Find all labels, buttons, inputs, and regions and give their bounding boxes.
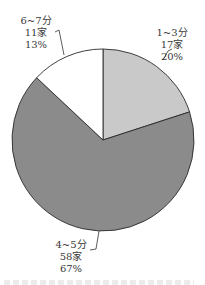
slice-label-4-5: 4~5分 58家 67% — [53, 239, 89, 275]
cropped-caption — [4, 280, 194, 285]
slice-label-count: 58家 — [53, 251, 89, 263]
slice-label-category: 1~3分 — [150, 27, 194, 39]
leader-line-6-7 — [55, 30, 64, 55]
pie-slices — [12, 49, 194, 231]
slice-label-1-3: 1~3分 17家 20% — [150, 27, 194, 63]
slice-label-percent: 20% — [150, 51, 194, 63]
slice-label-percent: 67% — [53, 263, 89, 275]
slice-label-count: 17家 — [150, 39, 194, 51]
slice-label-6-7: 6~7分 11家 13% — [18, 15, 54, 51]
slice-label-category: 4~5分 — [53, 239, 89, 251]
slice-label-count: 11家 — [18, 27, 54, 39]
slice-label-percent: 13% — [18, 39, 54, 51]
leader-line-4-5 — [90, 231, 99, 250]
slice-label-category: 6~7分 — [18, 15, 54, 27]
